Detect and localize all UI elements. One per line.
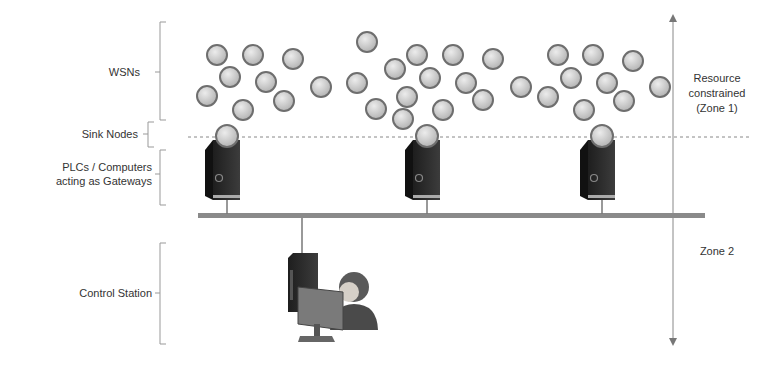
sensor-node-icon [456, 73, 476, 93]
sensor-node-icon [583, 45, 603, 65]
label-zone1: Resource constrained (Zone 1) [682, 71, 752, 116]
sensor-node-icon [614, 91, 634, 111]
wsn-sensor-nodes [197, 32, 670, 129]
sensor-node-icon [347, 73, 367, 93]
sensor-node-icon [511, 77, 531, 97]
sensor-node-icon [274, 91, 294, 111]
sensor-node-icon [548, 45, 568, 65]
sensor-node-icon [407, 45, 427, 65]
gateway-tower-icon [405, 125, 440, 214]
sensor-node-icon [366, 99, 386, 119]
sensor-node-icon [538, 87, 558, 107]
sensor-node-icon [207, 45, 227, 65]
gateway-towers [205, 125, 615, 214]
sensor-node-icon [597, 73, 617, 93]
sensor-node-icon [420, 68, 440, 88]
sensor-node-icon [483, 49, 503, 69]
sensor-node-icon [443, 45, 463, 65]
sensor-node-icon [561, 68, 581, 88]
label-plcs-line1: PLCs / Computers [20, 160, 152, 174]
network-zone-diagram: WSNs Sink Nodes PLCs / Computers acting … [0, 0, 781, 373]
sensor-node-icon [393, 109, 413, 129]
label-plcs: PLCs / Computers acting as Gateways [20, 160, 152, 188]
sensor-node-icon [574, 100, 594, 120]
monitor-icon [298, 287, 343, 330]
sensor-node-icon [283, 49, 303, 69]
sensor-node-icon [397, 87, 417, 107]
sensor-node-icon [357, 32, 377, 52]
sensor-node-icon [220, 67, 240, 87]
sink-node-icon [591, 125, 613, 147]
sink-node-icon [216, 125, 238, 147]
sink-node-icon [416, 125, 438, 147]
label-zone1-line3: (Zone 1) [682, 101, 752, 116]
sensor-node-icon [433, 100, 453, 120]
sensor-node-icon [256, 72, 276, 92]
label-zone1-line1: Resource [682, 71, 752, 86]
gateway-tower-icon [205, 125, 240, 214]
plc-bracket [155, 150, 166, 205]
label-wsns: WSNs [40, 65, 140, 79]
sensor-node-icon [650, 77, 670, 97]
sensor-node-icon [473, 90, 493, 110]
sensor-node-icon [233, 100, 253, 120]
label-zone2: Zone 2 [692, 244, 742, 259]
sensor-node-icon [311, 77, 331, 97]
label-control-station: Control Station [20, 286, 152, 300]
sensor-node-icon [243, 45, 263, 65]
sensor-node-icon [197, 86, 217, 106]
label-plcs-line2: acting as Gateways [20, 174, 152, 188]
gateway-tower-icon [580, 125, 615, 214]
sensor-node-icon [385, 59, 405, 79]
label-zone1-line2: constrained [682, 86, 752, 101]
network-bus [198, 213, 705, 218]
sink-bracket [143, 122, 154, 147]
label-sink-nodes: Sink Nodes [30, 127, 138, 141]
wsn-bracket [155, 22, 166, 120]
sensor-node-icon [623, 51, 643, 71]
control-bracket [155, 243, 166, 344]
control-station-icon [288, 218, 378, 342]
